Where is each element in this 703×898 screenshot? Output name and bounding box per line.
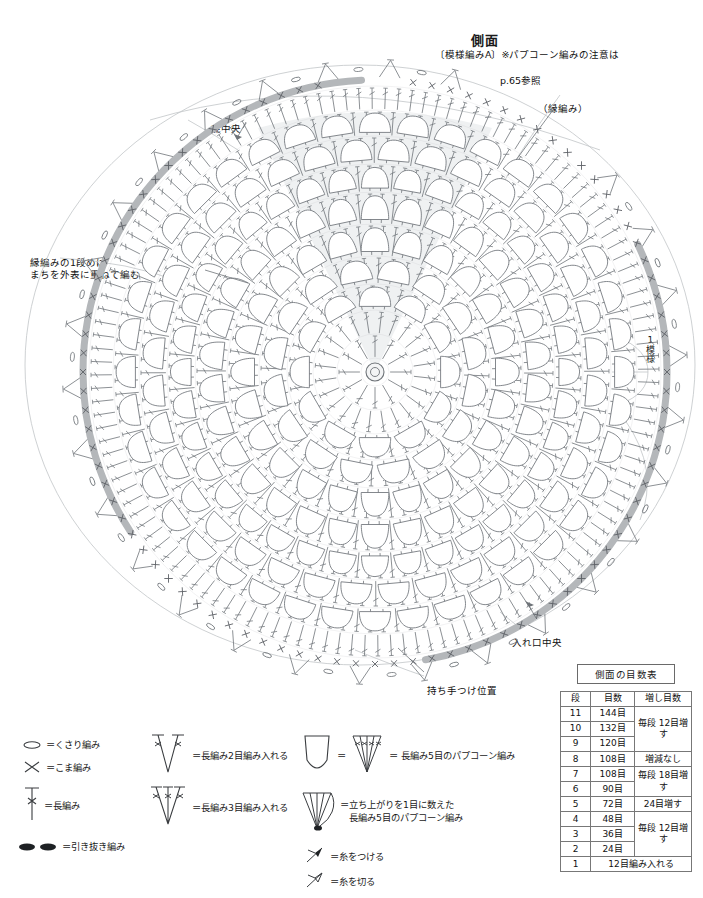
cell-increase-group: 毎段 18目増す [635, 767, 692, 797]
table-row: 4 48目 毎段 12目増す [561, 812, 692, 827]
popcorn-icon [300, 730, 334, 782]
cell-stitches: 108目 [591, 767, 635, 782]
dc3tog-increase-icon [148, 784, 188, 832]
cell-stitches: 108目 [591, 752, 635, 767]
legend-item-single-crochet: ＝こま編み [22, 759, 91, 778]
cut-yarn-icon [302, 871, 326, 893]
table-row: 5 72目 24目増す [561, 797, 692, 812]
popcorn-expanded-icon [349, 730, 385, 782]
legend-label: ＝長編み3目編み入れる [192, 802, 288, 815]
cell-stitches: 144目 [591, 707, 635, 722]
cell-increase-group: 24目増す [635, 797, 692, 812]
cell-round: 3 [561, 827, 591, 842]
legend-item-slip-stitch: ＝引き抜き編み [18, 838, 125, 857]
dc2tog-increase-icon [148, 732, 188, 780]
cell-stitches: 24目 [591, 842, 635, 857]
legend-item-dc3tog: ＝長編み3目編み入れる [148, 784, 288, 832]
legend-label: ＝引き抜き編み [62, 841, 125, 854]
legend-label: ＝糸をつける [330, 851, 384, 864]
cell-stitches: 72目 [591, 797, 635, 812]
cell-stitches: 120目 [591, 737, 635, 752]
table-row: 11 144目 毎段 12目増す [561, 707, 692, 722]
cell-round: 4 [561, 812, 591, 827]
stitch-count-table-caption: 側面の目数表 [577, 664, 675, 684]
chain-stitch-icon [22, 736, 42, 755]
slip-stitch-icon [18, 838, 58, 857]
legend-label: ＝糸を切る [330, 876, 375, 889]
legend-item-double-crochet: ＝長編み [22, 784, 80, 828]
legend-label: ＝長編み2目編み入れる [192, 750, 288, 763]
popcorn-equals-sign: ＝ [337, 750, 346, 763]
table-header-row: 段 目数 増し目数 [561, 692, 692, 707]
single-crochet-icon [22, 759, 42, 778]
cell-stitches: 90目 [591, 782, 635, 797]
legend-item-popcorn-turning: ＝立ち上がりを1目に数えた 長編み5目のパプコーン編み [300, 786, 463, 838]
cell-round: 8 [561, 752, 591, 767]
cell-round: 5 [561, 797, 591, 812]
legend-label: ＝くさり編み [46, 739, 100, 752]
cell-round: 7 [561, 767, 591, 782]
legend-item-dc2tog: ＝長編み2目編み入れる [148, 732, 288, 780]
cell-stitches: 36目 [591, 827, 635, 842]
legend: ＝くさり編み ＝こま編み ＝長編み ＝引き抜き編み [0, 726, 560, 898]
crochet-chart-svg [0, 0, 703, 700]
cell-stitches: 132目 [591, 722, 635, 737]
legend-label: ＝長編み [44, 800, 80, 813]
cell-round: 1 [561, 857, 591, 872]
popcorn-turning-icon [300, 786, 336, 838]
cell-round: 6 [561, 782, 591, 797]
cell-stitches: 12目編み入れる [591, 857, 692, 872]
cell-round: 2 [561, 842, 591, 857]
legend-label: ＝ 長編み5目のパプコーン編み [389, 750, 515, 763]
legend-item-chain: ＝くさり編み [22, 736, 100, 755]
cell-round: 10 [561, 722, 591, 737]
legend-label: ＝立ち上がりを1目に数えた 長編み5目のパプコーン編み [340, 799, 463, 824]
crochet-chart [0, 0, 703, 700]
double-crochet-icon [22, 784, 42, 828]
stitch-count-table: 段 目数 増し目数 11 144目 毎段 12目増す 10 132目 9 120… [560, 691, 692, 872]
cell-round: 9 [561, 737, 591, 752]
cell-round: 11 [561, 707, 591, 722]
table-row: 7 108目 毎段 18目増す [561, 767, 692, 782]
cell-stitches: 48目 [591, 812, 635, 827]
cell-increase-group: 増減なし [635, 752, 692, 767]
legend-item-cut-yarn: ＝糸を切る [302, 871, 375, 893]
cell-increase-group: 毎段 12目増す [635, 812, 692, 857]
table-row: 1 12目編み入れる [561, 857, 692, 872]
cell-increase-group: 毎段 12目増す [635, 707, 692, 752]
th-stitches: 目数 [591, 692, 635, 707]
table-row: 8 108目 増減なし [561, 752, 692, 767]
legend-item-popcorn: ＝ ＝ 長編み5目のパプコーン編み [300, 730, 515, 782]
th-increase: 増し目数 [635, 692, 692, 707]
legend-label: ＝こま編み [46, 762, 91, 775]
stitch-count-table-wrap: 側面の目数表 段 目数 増し目数 11 144目 毎段 12目増す 10 132… [556, 664, 696, 872]
th-round: 段 [561, 692, 591, 707]
attach-yarn-icon [302, 846, 326, 868]
legend-item-attach-yarn: ＝糸をつける [302, 846, 384, 868]
